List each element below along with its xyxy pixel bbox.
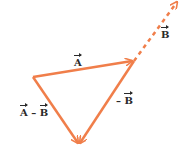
label-A: A	[74, 58, 82, 68]
vector-diagram: A B – B A – B	[0, 0, 182, 152]
vector-lines	[0, 0, 182, 152]
vector-B-dashed	[134, 2, 177, 61]
vector-A	[33, 61, 132, 77]
label-A-minus-B: A – B	[20, 108, 48, 118]
label-neg-B: – B	[116, 96, 133, 106]
label-B: B	[161, 30, 169, 40]
